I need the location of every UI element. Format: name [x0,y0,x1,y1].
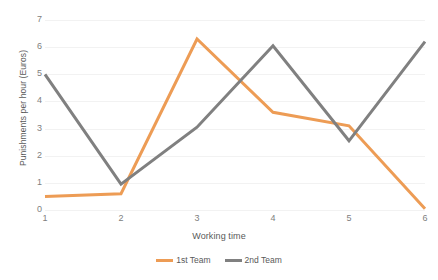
legend-label: 2nd Team [245,256,282,265]
series-lines [45,20,425,210]
series-line [45,39,425,209]
y-axis-tick-label: 2 [24,151,42,160]
legend-swatch-icon [156,259,173,262]
line-chart: Punishments per hour (Euros) 01234567 12… [0,0,438,280]
x-axis-tick-label: 2 [106,214,136,223]
legend-item[interactable]: 2nd Team [225,256,282,265]
y-axis-tick-label: 1 [24,178,42,187]
x-axis-tick-label: 1 [30,214,60,223]
y-axis-tick-label: 3 [24,124,42,133]
plot-area [45,20,425,210]
x-axis-tick-label: 6 [410,214,438,223]
legend-label: 1st Team [176,256,210,265]
gridline [45,210,425,211]
x-axis-tick-label: 3 [182,214,212,223]
y-axis-tick-label: 7 [24,15,42,24]
legend-swatch-icon [225,259,242,262]
chart-legend: 1st Team2nd Team [0,256,438,265]
y-axis-tick-label: 5 [24,69,42,78]
y-axis-tick-label: 4 [24,96,42,105]
x-axis-title: Working time [0,231,438,241]
legend-item[interactable]: 1st Team [156,256,210,265]
x-axis-tick-label: 5 [334,214,364,223]
y-axis-tick-label: 6 [24,42,42,51]
y-axis-tick-label: 0 [24,205,42,214]
series-line [45,42,425,185]
x-axis-tick-labels: 123456 [45,214,425,228]
x-axis-tick-label: 4 [258,214,288,223]
